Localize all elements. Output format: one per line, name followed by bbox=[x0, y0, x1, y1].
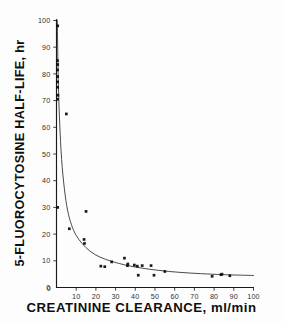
figure-canvas: 5-FLUOROCYTOSINE HALF-LIFE, hr 010203040… bbox=[0, 0, 283, 323]
x-axis-ticks: 0102030405060708090100 bbox=[47, 284, 260, 301]
data-point bbox=[211, 275, 214, 278]
data-point bbox=[56, 59, 59, 62]
data-point bbox=[136, 265, 139, 268]
y-tick-label: 30 bbox=[42, 203, 50, 212]
data-point bbox=[85, 210, 88, 213]
data-point bbox=[103, 265, 106, 268]
data-point bbox=[110, 261, 113, 264]
y-tick-label: 10 bbox=[42, 256, 50, 265]
data-point bbox=[137, 274, 140, 277]
y-tick-label: 60 bbox=[42, 123, 50, 132]
data-point bbox=[56, 24, 59, 27]
fit-curve bbox=[57, 21, 253, 276]
data-point bbox=[153, 274, 156, 277]
data-points bbox=[56, 24, 231, 277]
data-point bbox=[141, 264, 144, 267]
y-axis-ticks: 0102030405060708090100 bbox=[38, 16, 57, 292]
data-point bbox=[133, 264, 136, 267]
data-point bbox=[56, 206, 59, 209]
data-point bbox=[123, 257, 126, 260]
data-point bbox=[83, 238, 86, 241]
y-tick-label: 70 bbox=[42, 96, 50, 105]
y-tick-label: 50 bbox=[42, 150, 50, 159]
scatter-plot: 0102030405060708090100 01020304050607080… bbox=[0, 0, 283, 323]
data-point bbox=[221, 273, 224, 276]
data-point bbox=[229, 274, 232, 277]
y-tick-label: 80 bbox=[42, 70, 50, 79]
y-tick-label: 20 bbox=[42, 230, 50, 239]
data-point bbox=[57, 94, 60, 97]
data-point bbox=[150, 264, 153, 267]
x-axis-title: CREATININE CLEARANCE, ml/min bbox=[0, 300, 283, 315]
data-point bbox=[56, 81, 59, 84]
data-point bbox=[68, 227, 71, 230]
data-point bbox=[65, 113, 68, 116]
data-point bbox=[56, 69, 59, 72]
fit-curve-path bbox=[57, 21, 253, 276]
data-point bbox=[99, 265, 102, 268]
data-point bbox=[126, 263, 129, 266]
y-tick-label: 90 bbox=[42, 43, 50, 52]
data-point bbox=[56, 98, 59, 101]
data-point bbox=[164, 270, 167, 273]
data-point bbox=[56, 63, 59, 66]
data-point bbox=[56, 86, 59, 89]
data-point bbox=[83, 242, 86, 245]
x-tick-label: 0 bbox=[47, 284, 51, 293]
y-tick-label: 40 bbox=[42, 176, 50, 185]
data-point bbox=[56, 75, 59, 78]
y-tick-label: 100 bbox=[38, 16, 51, 25]
